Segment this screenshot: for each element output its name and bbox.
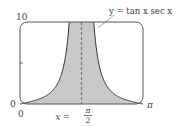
y-tick-label-10: 10 [16,12,28,22]
asymptote-label-prefix: x = [55,112,70,122]
asymptote-label-den: 2 [86,116,91,125]
asymptote-label-num: π [85,106,92,115]
y-tick-label-0: 0 [10,99,16,109]
x-tick-label-pi: π [146,100,154,110]
function-label: y = tan x sec x [108,6,172,16]
chart-canvas: 10 0 0 π y = tan x sec x x = π 2 [0,0,176,126]
x-tick-label-0: 0 [18,109,24,119]
